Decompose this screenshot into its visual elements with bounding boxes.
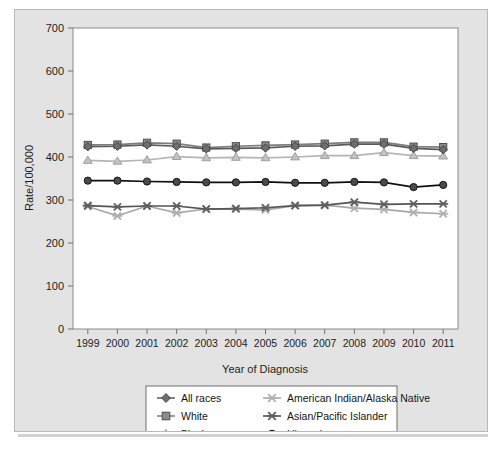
data-point-marker <box>232 179 239 186</box>
x-tick-label: 2009 <box>372 337 396 349</box>
y-tick-label: 600 <box>46 65 64 77</box>
data-point-marker <box>410 184 417 191</box>
legend-label: All races <box>181 392 221 404</box>
data-point-marker <box>380 179 387 186</box>
data-point-marker <box>321 179 328 186</box>
legend-item-white[interactable]: White <box>157 410 208 422</box>
y-axis-ticks <box>68 28 73 329</box>
figure-shadow <box>18 434 488 437</box>
x-axis-ticks <box>88 329 443 334</box>
legend-item-all-races[interactable]: All races <box>157 392 221 404</box>
x-tick-label: 2000 <box>106 337 130 349</box>
data-point-marker <box>143 178 150 185</box>
x-tick-label: 2002 <box>165 337 189 349</box>
data-point-marker <box>440 181 447 188</box>
data-point-marker <box>203 179 210 186</box>
figure-panel: 0100200300400500600700 19992000200120022… <box>14 9 488 432</box>
legend-label: Black <box>181 428 207 431</box>
y-axis-tick-labels: 0100200300400500600700 <box>46 22 64 335</box>
x-axis-title: Year of Diagnosis <box>222 363 308 375</box>
y-tick-label: 300 <box>46 194 64 206</box>
legend-label: Asian/Pacific Islander <box>287 410 388 422</box>
data-point-marker <box>351 178 358 185</box>
legend-item-american-indian-alaska-native[interactable]: American Indian/Alaska Native <box>263 392 430 404</box>
data-point-marker <box>292 179 299 186</box>
data-point-marker <box>114 177 121 184</box>
x-tick-label: 2007 <box>313 337 337 349</box>
data-point-marker <box>84 177 91 184</box>
legend-label: American Indian/Alaska Native <box>287 392 430 404</box>
legend-label: Hispanic <box>287 428 327 431</box>
y-tick-label: 400 <box>46 151 64 163</box>
y-axis-title: Rate/100,000 <box>23 145 35 211</box>
x-tick-label: 2005 <box>254 337 278 349</box>
x-tick-label: 2001 <box>135 337 159 349</box>
x-tick-label: 2006 <box>283 337 307 349</box>
line-chart: 0100200300400500600700 19992000200120022… <box>15 10 487 431</box>
x-tick-label: 2008 <box>343 337 367 349</box>
legend-label: White <box>181 410 208 422</box>
y-tick-label: 700 <box>46 22 64 34</box>
x-axis-tick-labels: 1999200020012002200320042005200620072008… <box>76 337 455 349</box>
y-tick-label: 0 <box>58 323 64 335</box>
x-tick-label: 2004 <box>224 337 248 349</box>
y-tick-label: 100 <box>46 280 64 292</box>
x-tick-label: 1999 <box>76 337 100 349</box>
data-point-marker <box>262 178 269 185</box>
x-tick-label: 2010 <box>402 337 426 349</box>
data-point-marker <box>162 412 170 420</box>
y-tick-label: 200 <box>46 237 64 249</box>
x-tick-label: 2011 <box>432 337 455 349</box>
y-tick-label: 500 <box>46 108 64 120</box>
data-point-marker <box>173 178 180 185</box>
x-tick-label: 2003 <box>195 337 219 349</box>
